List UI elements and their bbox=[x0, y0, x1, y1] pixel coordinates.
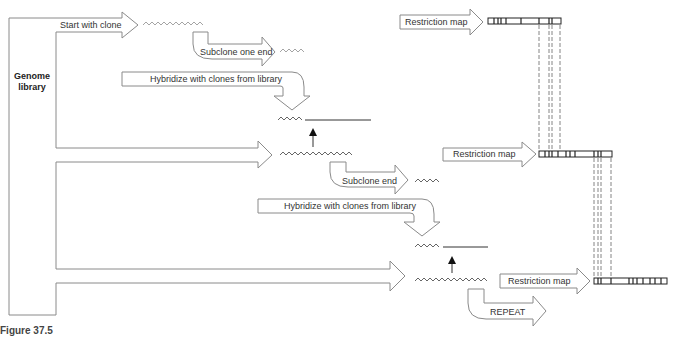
alignment-dashes-2 bbox=[594, 158, 611, 278]
genome-library-label-line1: Genome bbox=[14, 71, 50, 81]
initial-clone-dna bbox=[143, 22, 203, 25]
repeat-label: REPEAT bbox=[490, 307, 526, 317]
subcloned-end-fragment-1 bbox=[280, 49, 304, 52]
chromosome-walking-diagram: Genome library Start with clone Subclone… bbox=[0, 0, 679, 338]
hybridize-label-2: Hybridize with clones from library bbox=[284, 201, 417, 211]
restriction-map-2 bbox=[539, 151, 612, 157]
restriction-map-label-1: Restriction map bbox=[405, 17, 468, 27]
third-clone-dna bbox=[415, 278, 487, 281]
hybrid-probe-1 bbox=[278, 117, 302, 120]
up-arrow-icon-1 bbox=[309, 128, 317, 136]
hybridize-label-1: Hybridize with clones from library bbox=[150, 74, 283, 84]
restriction-map-1 bbox=[488, 18, 561, 24]
second-clone-dna bbox=[280, 152, 352, 155]
restriction-map-label-3: Restriction map bbox=[508, 276, 571, 286]
genome-library-label-line2: library bbox=[18, 82, 46, 92]
subclone-end-label: Subclone end bbox=[342, 176, 397, 186]
start-with-clone-label: Start with clone bbox=[60, 20, 122, 30]
up-arrow-icon-2 bbox=[448, 256, 456, 264]
restriction-map-label-2: Restriction map bbox=[453, 149, 516, 159]
subcloned-end-fragment-2 bbox=[415, 179, 439, 182]
subclone-one-end-label: Subclone one end bbox=[200, 47, 273, 57]
figure-caption: Figure 37.5 bbox=[0, 325, 53, 336]
restriction-map-3 bbox=[594, 278, 667, 284]
alignment-dashes-1 bbox=[539, 25, 560, 151]
hybrid-probe-2 bbox=[415, 244, 439, 247]
